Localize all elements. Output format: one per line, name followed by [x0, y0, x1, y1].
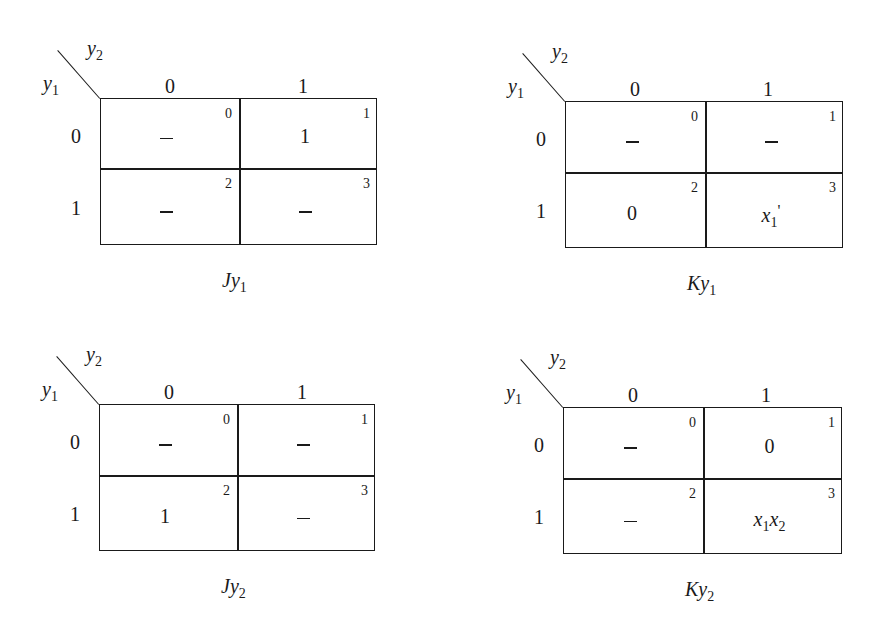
caption-main: Ky	[687, 272, 709, 294]
dont-care-dash	[160, 211, 173, 212]
kmap-cell-1: 11	[240, 99, 378, 169]
row-var-main: y	[508, 75, 517, 97]
row-variable-label: y1	[43, 73, 59, 98]
caption-subscript: 2	[239, 586, 246, 601]
cell-index-label: 2	[225, 177, 232, 191]
row-header-1: 1	[70, 504, 80, 524]
cell-value	[97, 200, 236, 220]
caption-subscript: 1	[709, 283, 716, 298]
caption-subscript: 1	[240, 280, 247, 295]
cell-value: x1x2	[700, 509, 839, 534]
cell-value	[97, 126, 236, 146]
column-variable-label: y2	[86, 344, 102, 369]
dont-care-dash	[765, 141, 778, 142]
caption-subscript: 2	[707, 589, 714, 604]
row-variable-label: y1	[42, 379, 58, 404]
dont-care-dash	[297, 444, 310, 445]
dont-care-dash	[159, 444, 172, 445]
column-header-1: 1	[761, 385, 771, 405]
col-var-subscript: 2	[559, 357, 566, 372]
kmap-grid: 01123	[100, 98, 377, 245]
caption-main: Jy	[222, 269, 240, 291]
cell-index-label: 0	[689, 416, 696, 430]
row-var-subscript: 1	[52, 83, 59, 98]
term-x: x	[762, 204, 771, 226]
kmap-cell-1: 1	[706, 102, 844, 173]
column-header-0: 0	[165, 76, 175, 96]
cell-value	[234, 506, 372, 526]
map-caption: Ky2	[685, 579, 714, 604]
row-variable-label: y1	[506, 382, 522, 407]
dont-care-dash	[297, 518, 310, 519]
row-var-main: y	[42, 378, 51, 400]
row-header-1: 1	[534, 507, 544, 527]
kmap-cell-0: 0	[564, 408, 704, 479]
cell-index-label: 2	[689, 487, 696, 501]
cell-value: 1	[96, 506, 234, 526]
kmap-grid: 01023x1x2	[563, 407, 842, 554]
col-var-main: y	[552, 40, 561, 62]
col-var-subscript: 2	[95, 354, 102, 369]
prime-mark: '	[778, 202, 781, 219]
col-var-subscript: 2	[561, 51, 568, 66]
col-var-main: y	[86, 343, 95, 365]
column-variable-label: y2	[552, 41, 568, 66]
cell-index-label: 3	[363, 177, 370, 191]
map-caption: Jy1	[222, 270, 247, 295]
cell-index-label: 0	[225, 107, 232, 121]
kmap-cell-1: 1	[238, 405, 376, 476]
term-x: x	[754, 508, 763, 530]
cell-value	[560, 509, 700, 529]
row-var-subscript: 1	[51, 389, 58, 404]
cell-value	[562, 130, 702, 150]
cell-index-label: 2	[223, 484, 230, 498]
col-var-subscript: 2	[96, 48, 103, 63]
row-var-main: y	[506, 381, 515, 403]
kmap-grid: 01213	[99, 404, 375, 551]
column-header-1: 1	[763, 79, 773, 99]
col-var-main: y	[550, 346, 559, 368]
column-header-0: 0	[630, 79, 640, 99]
row-header-0: 0	[534, 435, 544, 455]
dont-care-dash	[160, 138, 173, 139]
kmap-grid: 01203x1'	[565, 101, 843, 248]
dont-care-dash	[624, 447, 637, 448]
cell-index-label: 0	[223, 413, 230, 427]
row-header-0: 0	[71, 126, 81, 146]
cell-index-label: 3	[829, 181, 836, 195]
map-caption: Ky1	[687, 273, 716, 298]
kmap-cell-2: 2	[564, 479, 704, 555]
cell-index-label: 3	[828, 487, 835, 501]
row-variable-label: y1	[508, 76, 524, 101]
cell-value	[702, 130, 840, 150]
col-var-main: y	[87, 37, 96, 59]
column-variable-label: y2	[87, 38, 103, 63]
cell-index-label: 1	[828, 416, 835, 430]
term-subscript: 1	[771, 215, 778, 230]
kmap-cell-3: 3x1'	[706, 173, 844, 249]
cell-index-label: 1	[829, 110, 836, 124]
row-header-1: 1	[71, 198, 81, 218]
kmap-cell-0: 0	[101, 99, 240, 169]
cell-index-label: 1	[361, 413, 368, 427]
cell-value: 1	[236, 126, 374, 146]
cell-value	[560, 436, 700, 456]
cell-value	[236, 200, 374, 220]
cell-value: x1'	[702, 203, 840, 230]
row-var-main: y	[43, 72, 52, 94]
column-header-0: 0	[628, 385, 638, 405]
term-subscript: 1	[763, 519, 770, 534]
row-var-subscript: 1	[517, 86, 524, 101]
cell-index-label: 2	[691, 181, 698, 195]
kmap-cell-2: 21	[100, 476, 238, 552]
term-subscript: 2	[778, 519, 785, 534]
kmap-cell-3: 3	[238, 476, 376, 552]
kmap-cell-3: 3x1x2	[704, 479, 843, 555]
row-header-0: 0	[536, 129, 546, 149]
cell-value	[234, 433, 372, 453]
caption-main: Ky	[685, 578, 707, 600]
column-header-1: 1	[297, 382, 307, 402]
kmap-cell-1: 10	[704, 408, 843, 479]
cell-value: 0	[700, 436, 839, 456]
cell-value: 0	[562, 203, 702, 223]
